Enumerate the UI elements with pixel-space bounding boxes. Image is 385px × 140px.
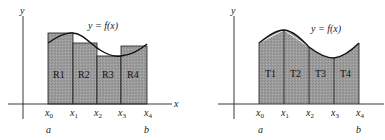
figure-rectangles: y x y = f(x) R1 R2 R3 R4 x0 x1 x2 x3 x4 … — [8, 5, 179, 135]
region-label-r2: R2 — [78, 69, 90, 80]
svg-text:x3: x3 — [117, 107, 126, 120]
curve-label: y = f(x) — [87, 20, 119, 32]
svg-text:x3: x3 — [330, 107, 339, 120]
region-label-t4: T4 — [340, 68, 351, 79]
y-axis-label: y — [19, 5, 25, 16]
x-axis-label: x — [173, 98, 179, 109]
svg-text:x2: x2 — [305, 107, 314, 120]
svg-text:x4: x4 — [355, 107, 364, 120]
region-label-t1: T1 — [265, 68, 276, 79]
svg-text:x2: x2 — [93, 107, 102, 120]
region-label-r4: R4 — [127, 69, 139, 80]
y-axis-label: y — [230, 5, 236, 16]
curve-label: y = f(x) — [310, 23, 342, 35]
figure-trapezoids: y y = f(x) T1 T2 T3 T4 x0 x1 x2 x3 x4 a … — [218, 5, 384, 135]
svg-text:x1: x1 — [69, 107, 78, 120]
diagram-canvas: y x y = f(x) R1 R2 R3 R4 x0 x1 x2 x3 x4 … — [0, 0, 385, 140]
partition-labels: x0 x1 x2 x3 x4 — [255, 107, 364, 120]
svg-text:x4: x4 — [143, 107, 152, 120]
endpoint-b: b — [356, 124, 361, 135]
endpoint-a: a — [46, 124, 51, 135]
region-label-r3: R3 — [102, 69, 114, 80]
endpoint-a: a — [258, 124, 263, 135]
svg-text:x0: x0 — [255, 107, 264, 120]
region-label-t2: T2 — [290, 68, 301, 79]
region-label-t3: T3 — [315, 68, 326, 79]
region-r3 — [97, 56, 121, 104]
svg-text:x1: x1 — [280, 107, 289, 120]
svg-text:x0: x0 — [44, 107, 53, 120]
region-label-r1: R1 — [53, 69, 65, 80]
partition-labels: x0 x1 x2 x3 x4 — [44, 107, 152, 120]
endpoint-b: b — [144, 124, 149, 135]
